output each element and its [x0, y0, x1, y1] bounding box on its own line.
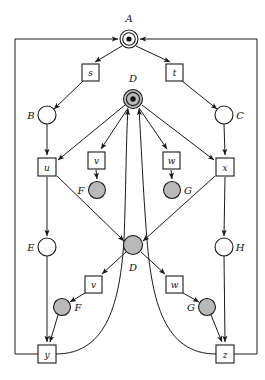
transition-w-lower-label: w	[171, 280, 179, 290]
place-F-upper[interactable]: F	[77, 182, 106, 199]
transition-w-lower[interactable]: w	[166, 276, 183, 293]
arc-y-Dtop	[56, 109, 128, 354]
transition-x[interactable]: x	[216, 158, 234, 176]
places: A B C D F G	[26, 13, 244, 316]
transition-y[interactable]: y	[38, 345, 56, 363]
place-E[interactable]: E	[26, 238, 56, 256]
arc-Flower-y	[50, 315, 58, 342]
transitions: s t u v w x v	[38, 64, 234, 363]
arc-s-B	[54, 81, 83, 109]
transition-v-upper[interactable]: v	[88, 152, 105, 169]
place-F-upper-label: F	[77, 185, 86, 196]
place-H-label: H	[235, 242, 245, 253]
diagram-canvas: s t u v w x v	[0, 0, 265, 380]
transition-u[interactable]: u	[38, 158, 56, 176]
place-E-circle[interactable]	[38, 238, 56, 256]
place-G-lower-label: G	[187, 302, 195, 313]
feedback-arcs	[15, 39, 257, 354]
arc-x-H	[224, 177, 225, 236]
arc-C-x	[224, 124, 225, 155]
transition-w-upper[interactable]: w	[163, 152, 180, 169]
place-D-mid[interactable]: D	[124, 236, 143, 274]
transition-s[interactable]: s	[82, 64, 99, 81]
arc-Dmid-wlower	[141, 252, 165, 274]
arc-t-C	[182, 81, 217, 109]
petri-net-diagram: s t u v w x v	[0, 0, 265, 380]
transition-z[interactable]: z	[216, 345, 234, 363]
transition-t[interactable]: t	[166, 64, 183, 81]
place-G-lower-circle[interactable]	[199, 299, 216, 316]
arc-A-s	[95, 46, 122, 62]
place-D-top-token	[130, 96, 135, 101]
place-G-lower[interactable]: G	[187, 299, 216, 316]
place-F-lower-label: F	[74, 302, 83, 313]
transition-u-label: u	[44, 163, 50, 173]
arc-wlower-Glower	[183, 293, 199, 302]
place-F-upper-circle[interactable]	[89, 182, 106, 199]
place-C-circle[interactable]	[215, 106, 233, 124]
arc-A-t	[136, 46, 170, 62]
transition-x-label: x	[222, 163, 227, 173]
transition-t-label: t	[173, 68, 177, 78]
transition-y-label: y	[43, 350, 50, 360]
arc-vupper-Fupper	[96, 170, 97, 179]
place-D-top-label: D	[128, 73, 137, 84]
transition-v-lower-label: v	[91, 280, 96, 290]
place-B-circle[interactable]	[38, 106, 56, 124]
arc-Dtop-wupper	[139, 108, 167, 149]
place-D-top[interactable]: D	[124, 73, 143, 109]
place-C[interactable]: C	[215, 106, 244, 124]
place-F-lower[interactable]: F	[54, 299, 83, 316]
place-H-circle[interactable]	[215, 238, 233, 256]
curved-arcs-to-d	[56, 109, 216, 354]
place-C-label: C	[236, 110, 244, 121]
place-A[interactable]: A	[120, 13, 138, 48]
arc-Glower-z	[211, 315, 222, 342]
place-D-mid-circle[interactable]	[124, 236, 143, 255]
place-F-lower-circle[interactable]	[54, 299, 71, 316]
place-E-label: E	[26, 242, 35, 253]
place-B-label: B	[26, 110, 34, 121]
place-G-upper-label: G	[184, 185, 192, 196]
transition-z-label: z	[222, 350, 228, 360]
transition-v-upper-label: v	[94, 156, 99, 166]
transition-s-label: s	[88, 68, 93, 78]
place-B[interactable]: B	[26, 106, 56, 124]
place-A-label: A	[124, 13, 132, 24]
arc-H-z	[224, 256, 225, 342]
place-A-token	[126, 36, 131, 41]
transition-w-upper-label: w	[168, 156, 176, 166]
arc-vlower-Flower	[70, 293, 85, 302]
arc-wupper-Gupper	[171, 170, 172, 179]
arc-z-Dtop	[139, 109, 216, 354]
place-H[interactable]: H	[215, 238, 245, 256]
place-G-upper[interactable]: G	[164, 182, 193, 199]
transition-v-lower[interactable]: v	[85, 276, 102, 293]
place-D-mid-label: D	[128, 262, 137, 273]
place-G-upper-circle[interactable]	[164, 182, 181, 199]
